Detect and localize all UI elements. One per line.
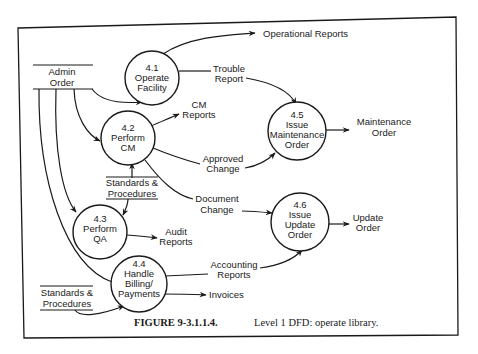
process-4-6-issue-update-order: 4.6 Issue Update Order bbox=[271, 193, 329, 251]
flow-approved-change-line-a bbox=[153, 148, 200, 164]
flow-label-document-change: Change bbox=[200, 204, 233, 215]
flow-label-invoices: Invoices bbox=[209, 289, 244, 300]
svg-text:CM: CM bbox=[121, 142, 136, 153]
flow-label-document-change: Document bbox=[195, 193, 239, 204]
flow-label-cm-reports: Reports bbox=[182, 109, 216, 120]
datastore-standards-procedures-1: Standards & Procedures bbox=[106, 177, 159, 199]
flow-label-approved-change: Change bbox=[206, 163, 239, 174]
datastore-standards-procedures-2: Standards & Procedures bbox=[40, 286, 94, 310]
datastore-label: Admin bbox=[49, 66, 76, 77]
flow-cm-reports-line bbox=[151, 114, 179, 126]
flow-accounting-reports-line-a bbox=[165, 274, 208, 276]
svg-text:QA: QA bbox=[93, 233, 107, 244]
flow-label-maintenance-order: Order bbox=[372, 127, 396, 138]
flow-label-maintenance-order: Maintenance bbox=[357, 116, 411, 127]
svg-text:Order: Order bbox=[288, 229, 312, 240]
svg-text:Payments: Payments bbox=[118, 288, 160, 299]
datastore-label: Standards & bbox=[41, 287, 94, 298]
process-4-2-perform-cm: 4.2 Perform CM bbox=[101, 111, 155, 165]
svg-text:Order: Order bbox=[285, 139, 309, 150]
flow-label-audit-reports: Reports bbox=[159, 236, 193, 247]
datastore-label: Standards & bbox=[106, 177, 159, 188]
flow-standards-to-4-3 bbox=[123, 199, 128, 215]
flow-audit-reports-line bbox=[127, 235, 157, 238]
flow-document-change-line-b bbox=[242, 211, 272, 213]
flow-admin-to-4-2 bbox=[74, 89, 100, 141]
flow-accounting-reports-line-b bbox=[260, 250, 302, 268]
flow-admin-to-4-3 bbox=[56, 89, 76, 212]
flow-label-accounting-reports: Reports bbox=[217, 269, 251, 280]
dfd-diagram: Admin Order Standards & Procedures Stand… bbox=[0, 0, 478, 354]
svg-text:Facility: Facility bbox=[137, 82, 167, 93]
flow-label-trouble-report: Report bbox=[215, 73, 244, 84]
figure-caption-number: FIGURE 9-3.1.1.4. bbox=[134, 317, 218, 328]
flow-approved-change-line-b bbox=[245, 153, 275, 168]
datastore-label: Procedures bbox=[108, 188, 157, 199]
datastore-admin-order: Admin Order bbox=[33, 65, 93, 89]
flow-invoices-line bbox=[162, 294, 206, 295]
flow-operational-reports-line bbox=[163, 33, 255, 54]
figure-caption-text: Level 1 DFD: operate library. bbox=[254, 317, 378, 328]
flow-label-update-order: Order bbox=[356, 222, 380, 233]
process-4-5-issue-maintenance-order: 4.5 Issue Maintenance Order bbox=[268, 102, 326, 160]
flow-label-operational-reports: Operational Reports bbox=[263, 28, 348, 39]
process-4-3-perform-qa: 4.3 Perform QA bbox=[73, 205, 127, 259]
datastore-label: Order bbox=[50, 77, 74, 88]
process-4-1-operate-facility: 4.1 Operate Facility bbox=[125, 51, 179, 105]
datastore-label: Procedures bbox=[43, 298, 92, 309]
process-4-4-handle-billing-payments: 4.4 Handle Billing/ Payments bbox=[111, 256, 167, 312]
flow-trouble-report-line-b bbox=[246, 78, 296, 104]
